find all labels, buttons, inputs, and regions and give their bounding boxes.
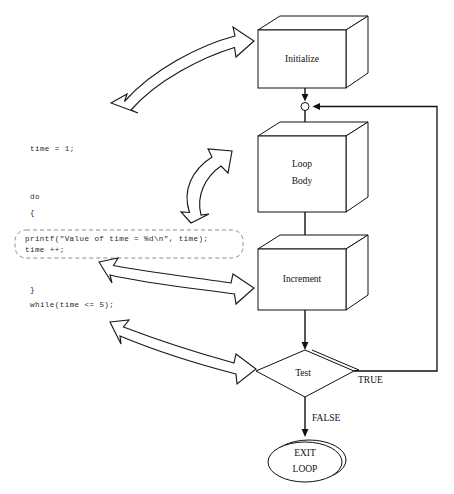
node-exit-loop[interactable]: EXIT LOOP [268,440,346,482]
node-exit-loop-label-line1: EXIT [294,448,316,458]
edge-test-false [302,397,309,437]
node-increment[interactable]: Increment [258,235,368,310]
node-test-label: Test [295,368,311,378]
node-initialize-label: Initialize [285,54,319,64]
mapping-arrow-increment [99,258,254,304]
node-loop-body[interactable]: Loop Body [258,122,368,212]
figure-canvas: time = 1; do { printf("Value of time = %… [0,0,454,494]
edge-label-false: FALSE [312,413,341,423]
mapping-arrow-initialize [111,27,254,113]
code-line-init: time = 1; [30,145,75,153]
flowchart-diagram: time = 1; do { printf("Value of time = %… [0,0,454,494]
edge-increment-to-test [302,310,309,350]
code-line-increment: time ++; [25,246,65,254]
node-initialize[interactable]: Initialize [258,16,368,88]
edge-initialize-to-junction [302,88,309,102]
junction-node [301,103,309,111]
mapping-arrow-loop-body [181,149,232,223]
code-line-printf: printf("Value of time = %d\n", time); [25,235,208,243]
node-loop-body-label-line2: Body [292,176,313,186]
code-line-do: do [30,193,40,201]
code-line-close-brace: } [30,286,35,294]
edge-label-true: TRUE [358,375,383,385]
code-line-open-brace: { [30,209,35,217]
node-test[interactable]: Test [256,350,359,397]
mapping-arrow-test [110,320,256,384]
node-increment-label: Increment [283,274,322,284]
node-exit-loop-label-line2: LOOP [293,464,318,474]
code-line-while: while(time <= 5); [30,301,114,309]
node-loop-body-label-line1: Loop [292,159,312,169]
